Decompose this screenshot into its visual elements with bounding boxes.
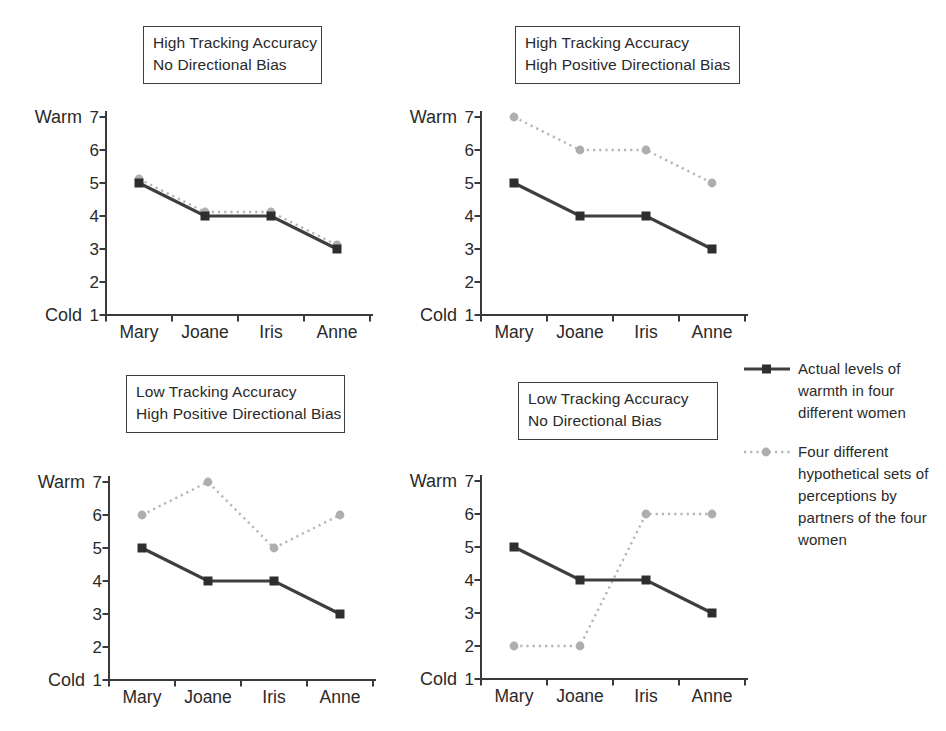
y-tick-label: 2 [93, 638, 102, 657]
x-category-label: Joane [184, 687, 232, 707]
y-tick-label: 4 [465, 207, 474, 226]
y-tick-label: 6 [90, 141, 99, 160]
warm-label: Warm [35, 107, 82, 127]
actual-marker [204, 577, 213, 586]
y-tick-label: 2 [465, 273, 474, 292]
actual-marker [708, 609, 717, 618]
y-tick-label: 6 [93, 506, 102, 525]
actual-marker [135, 179, 144, 188]
y-tick-label: 3 [93, 605, 102, 624]
y-tick-label: 4 [90, 207, 99, 226]
y-tick-label: 5 [465, 174, 474, 193]
hypothetical-marker [576, 146, 585, 155]
warm-label: Warm [38, 472, 85, 492]
title-box-top-left: High Tracking Accuracy No Directional Bi… [143, 26, 322, 84]
hypothetical-marker [642, 146, 651, 155]
x-category-label: Anne [692, 322, 733, 342]
warm-label: Warm [410, 107, 457, 127]
title-line: No Directional Bias [528, 410, 709, 432]
hypothetical-marker [510, 642, 519, 651]
solid-line-square-icon [743, 362, 793, 376]
hypothetical-marker [138, 511, 147, 520]
hypothetical-marker [336, 511, 345, 520]
hypothetical-series-line [514, 117, 712, 183]
x-category-label: Mary [495, 322, 534, 342]
hypothetical-marker [576, 642, 585, 651]
cold-label: Cold [420, 305, 457, 325]
cold-label: Cold [48, 670, 85, 690]
title-box-top-right: High Tracking Accuracy High Positive Dir… [515, 26, 740, 84]
actual-marker [510, 543, 519, 552]
chart-low-accuracy-no-bias: 7654321WarmColdMaryJoaneIrisAnne [375, 466, 765, 716]
legend-hypothetical-circle-marker [762, 448, 771, 457]
actual-series-line [514, 183, 712, 249]
warm-label: Warm [410, 471, 457, 491]
x-category-label: Mary [120, 322, 159, 342]
title-line: Low Tracking Accuracy [136, 381, 336, 403]
actual-marker [708, 245, 717, 254]
y-tick-label: 5 [93, 539, 102, 558]
actual-marker [510, 179, 519, 188]
x-category-label: Iris [634, 322, 658, 342]
chart-low-accuracy-high-positive-bias: 7654321WarmColdMaryJoaneIrisAnne [3, 467, 393, 717]
actual-marker [201, 212, 210, 221]
y-tick-label: 7 [465, 108, 474, 127]
actual-marker [138, 544, 147, 553]
x-category-label: Anne [317, 322, 358, 342]
title-box-bottom-right: Low Tracking Accuracy No Directional Bia… [518, 382, 718, 440]
x-category-label: Iris [634, 686, 658, 706]
hypothetical-marker [642, 510, 651, 519]
y-tick-label: 3 [465, 604, 474, 623]
actual-marker [576, 212, 585, 221]
title-line: No Directional Bias [153, 54, 313, 76]
x-category-label: Anne [692, 686, 733, 706]
x-category-label: Iris [262, 687, 286, 707]
actual-marker [267, 212, 276, 221]
y-tick-label: 6 [465, 505, 474, 524]
y-tick-label: 7 [465, 472, 474, 491]
title-line: Low Tracking Accuracy [528, 388, 709, 410]
actual-marker [270, 577, 279, 586]
x-category-label: Joane [556, 686, 604, 706]
x-category-label: Iris [259, 322, 283, 342]
actual-series-line [142, 548, 340, 614]
legend-item-hypothetical: Four different hypothetical sets of perc… [743, 441, 929, 551]
title-line: High Tracking Accuracy [525, 32, 731, 54]
dotted-line-circle-icon [743, 445, 793, 459]
y-tick-label: 1 [465, 306, 474, 325]
legend-label-hypothetical: Four different hypothetical sets of perc… [798, 441, 929, 551]
y-tick-label: 5 [465, 538, 474, 557]
legend: Actual levels of warmth in four differen… [743, 358, 929, 568]
cold-label: Cold [420, 669, 457, 689]
x-category-label: Joane [556, 322, 604, 342]
y-tick-label: 3 [465, 240, 474, 259]
y-tick-label: 7 [90, 108, 99, 127]
legend-label-actual: Actual levels of warmth in four differen… [798, 358, 929, 424]
y-tick-label: 2 [465, 637, 474, 656]
actual-series-line [514, 547, 712, 613]
legend-actual-square-marker [762, 365, 771, 374]
y-tick-label: 7 [93, 473, 102, 492]
y-tick-label: 1 [90, 306, 99, 325]
x-category-label: Joane [181, 322, 229, 342]
title-box-bottom-left: Low Tracking Accuracy High Positive Dire… [126, 375, 345, 433]
y-tick-label: 2 [90, 273, 99, 292]
y-tick-label: 4 [465, 571, 474, 590]
x-category-label: Anne [320, 687, 361, 707]
y-tick-label: 1 [93, 671, 102, 690]
title-line: High Tracking Accuracy [153, 32, 313, 54]
y-tick-label: 6 [465, 141, 474, 160]
x-category-label: Mary [495, 686, 534, 706]
chart-high-accuracy-high-positive-bias: 7654321WarmColdMaryJoaneIrisAnne [375, 102, 765, 352]
figure-page: High Tracking Accuracy No Directional Bi… [0, 0, 946, 731]
y-tick-label: 5 [90, 174, 99, 193]
actual-marker [333, 245, 342, 254]
y-tick-label: 1 [465, 670, 474, 689]
y-tick-label: 3 [90, 240, 99, 259]
hypothetical-series-line [142, 482, 340, 548]
chart-high-accuracy-no-bias: 7654321WarmColdMaryJoaneIrisAnne [0, 102, 390, 352]
actual-marker [642, 212, 651, 221]
hypothetical-marker [708, 510, 717, 519]
x-category-label: Mary [123, 687, 162, 707]
hypothetical-marker [270, 544, 279, 553]
